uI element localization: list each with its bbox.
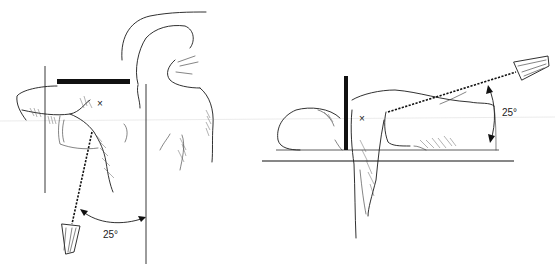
arc-arrowhead-bottom bbox=[488, 134, 495, 143]
back-outline bbox=[200, 88, 213, 162]
central-ray-marker: × bbox=[359, 113, 365, 124]
scan-artifact-line bbox=[0, 117, 555, 121]
illustration: × 25° bbox=[0, 0, 555, 271]
detector-plate bbox=[344, 76, 348, 150]
central-ray-marker: × bbox=[97, 98, 103, 109]
arc-arrowhead-top bbox=[486, 85, 493, 94]
angle-label: 25° bbox=[103, 229, 118, 240]
torso-outline bbox=[352, 90, 494, 106]
left-panel: × 25° bbox=[17, 12, 213, 264]
shoulder-support-bar bbox=[57, 79, 130, 84]
x-ray-tube-icon bbox=[514, 56, 549, 80]
angle-arc bbox=[489, 88, 495, 140]
arm-outline bbox=[351, 110, 356, 238]
angle-label: 25° bbox=[502, 107, 517, 118]
arc-arrowhead-right bbox=[138, 216, 146, 222]
right-panel: × 25° bbox=[262, 56, 549, 238]
angle-arc bbox=[82, 211, 144, 223]
x-ray-tube-icon bbox=[62, 224, 80, 254]
x-ray-beam bbox=[388, 72, 516, 112]
head-outline bbox=[278, 108, 340, 150]
